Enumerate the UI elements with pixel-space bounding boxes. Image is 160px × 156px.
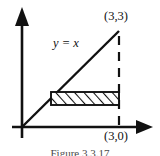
y-axis-arrowhead: [15, 7, 29, 26]
line-equation-label: y = x: [53, 37, 79, 50]
figure-caption: Figure 3.3.17: [0, 147, 160, 156]
x-axis: [12, 120, 153, 134]
figure-graphic: [0, 0, 160, 156]
point-label-3-3: (3,3): [104, 10, 128, 23]
figure-container: y = x (3,3) (3,0) Figure 3.3.17: [0, 0, 160, 156]
point-label-3-0: (3,0): [104, 130, 128, 143]
hatched-region: [51, 92, 119, 105]
y-axis: [15, 7, 29, 138]
x-axis-arrowhead: [136, 120, 153, 134]
